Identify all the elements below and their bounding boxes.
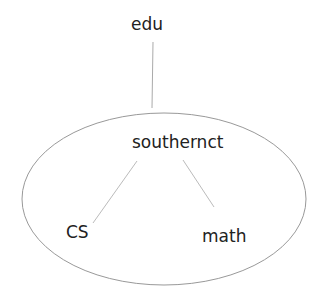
edge-southernct-cs <box>93 161 137 223</box>
edge-southernct-math <box>183 160 214 207</box>
node-math: math <box>202 226 246 246</box>
node-edu: edu <box>131 14 163 34</box>
edge-edu-southernct <box>152 42 153 108</box>
node-cs: CS <box>66 222 89 242</box>
domain-diagram: edu southernct CS math <box>0 0 321 300</box>
node-southernct: southernct <box>132 132 224 152</box>
